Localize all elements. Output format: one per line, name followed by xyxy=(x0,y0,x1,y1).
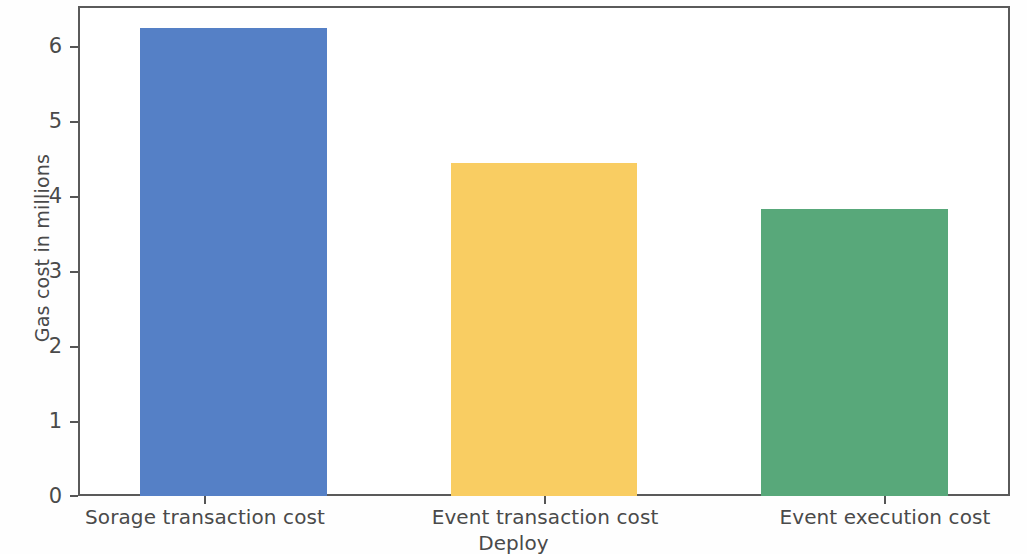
bar-event-transaction-cost[interactable] xyxy=(451,163,637,496)
y-tick-mark xyxy=(70,196,78,198)
bar-event-execution-cost[interactable] xyxy=(761,209,947,496)
x-tick-label-event-execution-cost: Event execution cost xyxy=(780,505,991,529)
x-tick-mark xyxy=(884,496,886,504)
x-axis-label: Deploy xyxy=(0,531,1027,554)
bar-sorage-transaction-cost[interactable] xyxy=(140,28,326,496)
x-tick-mark xyxy=(204,496,206,504)
y-tick-label: 1 xyxy=(34,411,62,432)
x-tick-mark xyxy=(544,496,546,504)
y-tick-mark xyxy=(70,421,78,423)
y-tick-label: 5 xyxy=(34,111,62,132)
y-axis-tick-label-group: 6 5 4 3 2 1 0 xyxy=(34,0,62,554)
y-tick-label: 0 xyxy=(34,486,62,507)
y-tick-label: 6 xyxy=(34,36,62,57)
y-tick-mark xyxy=(70,495,78,497)
y-tick-mark xyxy=(70,121,78,123)
x-tick-label-sorage-transaction-cost: Sorage transaction cost xyxy=(85,505,325,529)
bar-chart-figure: Gas cost in millions 6 5 4 3 2 1 0 Sorag… xyxy=(0,0,1027,554)
y-tick-label: 4 xyxy=(34,186,62,207)
plot-area xyxy=(78,6,1010,496)
y-tick-mark xyxy=(70,46,78,48)
y-tick-mark xyxy=(70,346,78,348)
y-tick-label: 2 xyxy=(34,336,62,357)
x-tick-label-event-transaction-cost: Event transaction cost xyxy=(432,505,659,529)
y-tick-label: 3 xyxy=(34,261,62,282)
y-tick-mark xyxy=(70,271,78,273)
